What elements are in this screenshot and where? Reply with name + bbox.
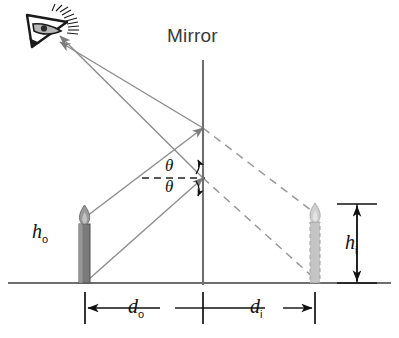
image-height-label: hi (345, 231, 357, 256)
object-height-symbol: h (32, 220, 42, 242)
incident-ray-upper (87, 128, 203, 216)
object-candle-highlight (79, 224, 83, 283)
object-candle (79, 205, 90, 283)
image-distance-symbol: d (250, 295, 260, 317)
image-distance-label: di (250, 295, 262, 320)
reflected-ray-upper (60, 42, 203, 128)
incident-ray-lower (88, 178, 203, 280)
diagram-canvas (0, 0, 399, 338)
virtual-ray-upper (203, 128, 316, 214)
object-distance-subscript: o (138, 308, 144, 320)
image-height-symbol: h (345, 231, 355, 253)
reflected-rays (60, 36, 203, 178)
image-candle-body (310, 222, 320, 283)
angle-incidence-label: θ (165, 156, 173, 176)
virtual-ray-lower (203, 178, 316, 280)
image-height-subscript: i (355, 244, 357, 256)
mirror-ray-diagram: Mirror ho hi do di θ θ (0, 0, 399, 338)
object-height-label: ho (32, 220, 48, 245)
observer-eye-icon (27, 4, 79, 47)
object-height-subscript: o (42, 233, 48, 245)
eye-pupil (41, 25, 47, 31)
angle-reflection-label: θ (165, 177, 173, 197)
image-distance-subscript: i (260, 308, 262, 320)
image-candle (310, 203, 320, 283)
distance-dimension (85, 292, 315, 324)
incident-rays (87, 128, 203, 280)
mirror-label: Mirror (167, 25, 218, 47)
object-distance-label: do (128, 295, 144, 320)
object-distance-symbol: d (128, 295, 138, 317)
virtual-rays (203, 128, 316, 280)
reflected-ray-lower (60, 36, 203, 178)
